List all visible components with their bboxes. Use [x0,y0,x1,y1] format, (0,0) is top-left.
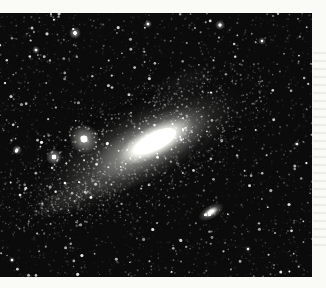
paper-margin-texture [313,52,326,247]
andromeda-galaxy-photo [0,13,312,277]
paper-background [0,0,326,288]
